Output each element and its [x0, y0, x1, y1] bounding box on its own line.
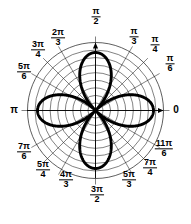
fraction: 3π4 [31, 40, 45, 59]
polar-rose-figure: 0π6π4π3π22π33π45π6π7π65π44π33π25π37π411π… [0, 0, 191, 224]
fraction: 3π2 [90, 185, 104, 204]
fraction-denominator: 6 [17, 153, 31, 162]
fraction: π6 [166, 54, 175, 73]
angle-label-pi-4: π4 [151, 35, 160, 54]
fraction-denominator: 6 [166, 65, 175, 74]
angle-label-pi: π [10, 105, 18, 115]
axis-value: π [10, 105, 18, 115]
angle-label-7pi-4: 7π4 [143, 158, 157, 177]
fraction: 7π4 [143, 158, 157, 177]
fraction: 2π3 [51, 28, 65, 47]
angle-label-4pi-3: 4π3 [59, 170, 73, 189]
angle-label-pi-2: π2 [92, 7, 101, 26]
fraction-denominator: 6 [17, 73, 31, 82]
angle-label-2pi-3: 2π3 [51, 28, 65, 47]
angle-label-7pi-6: 7π6 [17, 142, 31, 161]
fraction-denominator: 2 [90, 196, 104, 205]
angle-label-5pi-3: 5π3 [122, 170, 136, 189]
fraction-denominator: 2 [92, 18, 101, 27]
angle-label-3pi-4: 3π4 [31, 40, 45, 59]
angle-label-pi-6: π6 [166, 54, 175, 73]
fraction-denominator: 3 [122, 181, 136, 190]
fraction-denominator: 4 [36, 171, 50, 180]
fraction-denominator: 3 [130, 38, 139, 47]
fraction-denominator: 4 [31, 51, 45, 60]
fraction: 5π3 [122, 170, 136, 189]
fraction: 7π6 [17, 142, 31, 161]
fraction-denominator: 4 [143, 169, 157, 178]
angle-label-3pi-2: 3π2 [90, 185, 104, 204]
fraction-denominator: 3 [59, 181, 73, 190]
angle-label-5pi-4: 5π4 [36, 160, 50, 179]
fraction: π3 [130, 27, 139, 46]
angle-label-0: 0 [173, 105, 179, 115]
fraction: π2 [92, 7, 101, 26]
fraction: 4π3 [59, 170, 73, 189]
fraction-denominator: 4 [151, 46, 160, 55]
angle-label-5pi-6: 5π6 [17, 62, 31, 81]
fraction-denominator: 6 [155, 150, 173, 159]
angle-label-11pi-6: 11π6 [155, 139, 173, 158]
fraction-denominator: 3 [51, 39, 65, 48]
fraction: π4 [151, 35, 160, 54]
fraction: 5π6 [17, 62, 31, 81]
angle-label-pi-3: π3 [130, 27, 139, 46]
fraction: 5π4 [36, 160, 50, 179]
fraction: 11π6 [155, 139, 173, 158]
axis-value: 0 [173, 105, 179, 115]
